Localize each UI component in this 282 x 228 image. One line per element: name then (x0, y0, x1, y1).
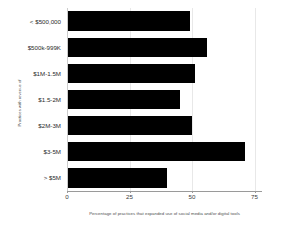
x-axis-tick-labels: 0255075 (67, 193, 262, 203)
y-axis-tick-label: $1.5-2M (26, 86, 64, 112)
y-axis-tick-label: < $500,000 (26, 8, 64, 34)
y-axis-title-text: Practices with revenue of (18, 80, 22, 127)
y-axis-tick-label: $2M-3M (26, 113, 64, 139)
y-axis-tick-label: $3-5M (26, 139, 64, 165)
bar (68, 90, 180, 109)
y-axis-title: Practices with revenue of (14, 38, 26, 168)
x-axis-tick-label: 50 (189, 193, 196, 200)
bar-row (68, 34, 262, 60)
bar-row (68, 139, 262, 165)
bar-row (68, 60, 262, 86)
x-axis-title: Percentage of practices that expanded us… (67, 211, 262, 216)
x-axis-line (67, 191, 262, 192)
y-axis-tick-label: > $5M (26, 165, 64, 191)
plot-area (67, 8, 262, 191)
y-axis-tick-label: $500k-999K (26, 34, 64, 60)
bar (68, 38, 207, 57)
y-axis-tick-labels: < $500,000 $500k-999K $1M-1.5M $1.5-2M $… (26, 8, 64, 191)
bar (68, 64, 195, 83)
bar-row (68, 86, 262, 112)
bar-row (68, 113, 262, 139)
bar-row (68, 8, 262, 34)
bar (68, 116, 192, 135)
bar-row (68, 165, 262, 191)
bar (68, 168, 167, 187)
x-axis-tick-label: 75 (251, 193, 258, 200)
bar (68, 142, 245, 161)
bar (68, 11, 190, 30)
y-axis-tick-label: $1M-1.5M (26, 60, 64, 86)
bar-series (68, 8, 262, 191)
x-axis-tick-label: 0 (65, 193, 68, 200)
bar-chart: Practices with revenue of < $500,000 $50… (0, 0, 282, 228)
x-axis-tick-label: 25 (126, 193, 133, 200)
